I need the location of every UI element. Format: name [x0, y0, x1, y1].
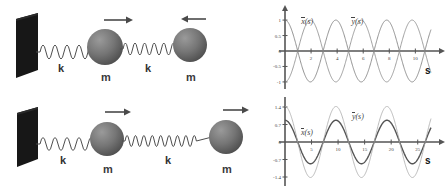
arrow-right-mass-4 — [223, 107, 249, 114]
svg-text:2: 2 — [310, 56, 313, 61]
x-axis-label-0: s — [425, 65, 431, 76]
diagram-two-mass-symmetric — [0, 95, 250, 189]
fixed-wall — [16, 13, 38, 78]
svg-text:1.4: 1.4 — [275, 105, 282, 110]
mass-2-label: m — [186, 72, 196, 83]
svg-text:10: 10 — [413, 56, 419, 61]
series-label-x-1: x(s) — [301, 128, 313, 137]
series-label-y-0: y(s) — [351, 17, 363, 26]
figure-root: k m k m — [0, 0, 446, 189]
arrow-right-mass-3 — [105, 109, 131, 116]
mass-3 — [90, 122, 124, 156]
x-axis-label-1: s — [425, 155, 431, 166]
svg-text:15: 15 — [362, 147, 368, 152]
svg-text:-1.4: -1.4 — [273, 175, 281, 180]
svg-text:8: 8 — [388, 56, 391, 61]
svg-text:25: 25 — [415, 147, 421, 152]
chart-mode-1: 24681010.50-0.5-1 s x(s) y(s) — [255, 5, 446, 93]
fixed-wall-2 — [17, 107, 38, 167]
chart-mode-2-svg: 5101520251.40.70-0.7-1.4 — [255, 97, 446, 187]
mass-2 — [173, 28, 207, 62]
series-label-y-1: y(s) — [352, 112, 364, 121]
svg-text:6: 6 — [362, 56, 365, 61]
arrow-left-mass-2 — [181, 16, 206, 23]
chart-mode-2: 5101520251.40.70-0.7-1.4 s x(s) y(s) — [255, 97, 446, 187]
svg-text:0.7: 0.7 — [275, 123, 282, 128]
mass-1-label: m — [101, 72, 111, 83]
spring-2-label: k — [145, 63, 151, 74]
svg-text:-1: -1 — [277, 80, 282, 85]
spring-2 — [120, 43, 176, 55]
svg-text:0.5: 0.5 — [275, 34, 282, 39]
spring-3-label: k — [60, 155, 66, 166]
svg-text:1: 1 — [279, 18, 282, 23]
svg-text:20: 20 — [389, 147, 395, 152]
svg-text:-0.5: -0.5 — [273, 64, 281, 69]
mass-3-label: m — [103, 164, 113, 175]
diagram-two-mass-antisymmetric — [0, 0, 250, 95]
svg-text:10: 10 — [336, 147, 342, 152]
svg-text:-0.7: -0.7 — [273, 158, 281, 163]
mass-4-label: m — [222, 164, 232, 175]
svg-text:4: 4 — [336, 56, 339, 61]
spring-1-label: k — [58, 63, 64, 74]
mass-1 — [87, 29, 123, 65]
spring-4-label: k — [165, 155, 171, 166]
svg-text:5: 5 — [310, 147, 313, 152]
spring-4 — [122, 136, 212, 147]
spring-3 — [36, 138, 94, 151]
series-label-x-0: x(s) — [301, 17, 313, 26]
arrow-right-mass-1 — [104, 17, 133, 24]
mass-4 — [209, 120, 243, 154]
mechanical-diagrams: k m k m — [0, 0, 250, 189]
